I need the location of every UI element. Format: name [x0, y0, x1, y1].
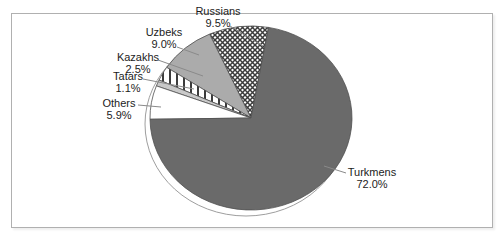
- slice-percent: 1.1%: [113, 83, 143, 94]
- slice-name: Uzbeks: [146, 27, 183, 38]
- slice-name: Others: [102, 98, 135, 109]
- slice-callout-tatars: Tatars1.1%: [113, 71, 143, 94]
- slice-percent: 9.5%: [195, 18, 240, 29]
- slice-callout-uzbeks: Uzbeks9.0%: [146, 27, 183, 50]
- pie-chart: [0, 0, 502, 237]
- slice-name: Russians: [195, 6, 240, 17]
- slice-percent: 72.0%: [348, 179, 397, 190]
- slice-name: Turkmens: [348, 167, 397, 178]
- slice-callout-turkmens: Turkmens72.0%: [348, 167, 397, 190]
- slice-percent: 9.0%: [146, 39, 183, 50]
- slice-callout-russians: Russians9.5%: [195, 6, 240, 29]
- slice-name: Kazakhs: [117, 52, 159, 63]
- slice-callout-others: Others5.9%: [102, 98, 135, 121]
- slice-name: Tatars: [113, 71, 143, 82]
- slice-percent: 5.9%: [102, 110, 135, 121]
